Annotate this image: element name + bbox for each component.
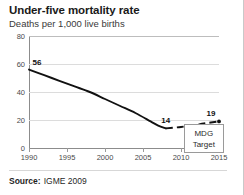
x-tick-mark-1990 (29, 148, 30, 152)
x-tick-label-1995: 1995 (59, 153, 76, 162)
x-tick-label-2005: 2005 (135, 153, 152, 162)
y-tick-label-20: 20 (17, 116, 25, 125)
x-tick-label-1990: 1990 (21, 153, 38, 162)
footer-divider (9, 170, 227, 171)
mdg-target-line-2: Target (185, 139, 223, 150)
x-tick-mark-2005 (143, 148, 144, 152)
x-tick-mark-2000 (105, 148, 106, 152)
observed-line (29, 70, 166, 129)
x-tick-mark-2010 (181, 148, 182, 152)
x-tick-label-2015: 2015 (211, 153, 228, 162)
x-tick-label-2000: 2000 (97, 153, 114, 162)
mdg-target-callout: MDG Target (184, 124, 224, 153)
page-title: Under-five mortality rate (9, 4, 139, 16)
y-tick-label-60: 60 (17, 60, 25, 69)
x-tick-label-2010: 2010 (173, 153, 190, 162)
plot-area: 020406080 199019952000200520102015 56141… (29, 36, 219, 148)
source-label: Source: (9, 176, 41, 186)
mdg-target-line-1: MDG (185, 128, 223, 139)
chart-subtitle: Deaths per 1,000 live births (9, 18, 125, 29)
source-note: Source:IGME 2009 (9, 176, 87, 186)
source-value: IGME 2009 (44, 176, 87, 186)
card-right-divider (243, 0, 244, 195)
chart-card: Under-five mortality rate Deaths per 1,0… (0, 0, 244, 195)
y-tick-label-80: 80 (17, 32, 25, 41)
y-tick-label-0: 0 (21, 144, 25, 153)
y-tick-label-40: 40 (17, 88, 25, 97)
x-tick-mark-1995 (67, 148, 68, 152)
